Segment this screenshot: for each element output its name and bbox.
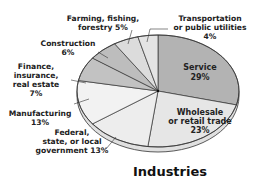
- label-farming-fishing-forestry: Farming, fishing,forestry 5%: [67, 14, 139, 32]
- label-finance-insurance-real-estate: Finance,insurance,real estate7%: [13, 62, 59, 98]
- pie-slices: [77, 35, 239, 147]
- label-line: Federal,: [55, 128, 90, 137]
- label-line: Manufacturing: [9, 109, 72, 118]
- label-line: insurance,: [14, 71, 59, 80]
- chart-title: Industries: [133, 164, 207, 179]
- pie-center-point: [157, 90, 159, 92]
- label-line: 4%: [204, 32, 217, 41]
- label-line: Wholesale: [177, 108, 224, 117]
- label-line: 23%: [190, 126, 209, 135]
- label-line: Transportation: [178, 14, 241, 23]
- label-manufacturing: Manufacturing13%: [9, 109, 72, 127]
- pie-chart: Service29%Wholesaleor retail trade23%Fed…: [0, 0, 259, 181]
- label-line: 29%: [190, 73, 209, 82]
- label-line: Service: [183, 63, 217, 72]
- label-line: forestry 5%: [78, 23, 128, 32]
- label-line: 7%: [30, 89, 43, 98]
- label-line: 13%: [31, 118, 50, 127]
- label-line: or public utilities: [174, 23, 247, 32]
- label-line: Construction: [41, 39, 96, 48]
- label-line: 6%: [62, 48, 75, 57]
- label-line: or retail trade: [168, 117, 232, 126]
- label-line: state, or local: [42, 137, 101, 146]
- label-line: government 13%: [36, 146, 109, 155]
- label-line: Farming, fishing,: [67, 14, 139, 23]
- label-line: Finance,: [18, 62, 54, 71]
- label-line: real estate: [13, 80, 59, 89]
